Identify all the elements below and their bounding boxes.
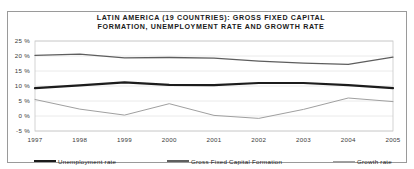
legend-line-icon-unemployment-rate — [34, 160, 56, 162]
y-tick-label: 25 % — [4, 37, 30, 44]
x-tick-label: 2000 — [151, 136, 187, 143]
x-tick-label: 1997 — [17, 136, 53, 143]
legend-item-growth-rate[interactable]: Growth rate — [333, 158, 392, 165]
legend-line-icon-gross-fixed-capital-formation — [167, 160, 189, 161]
series-line — [35, 82, 393, 88]
y-tick-label: 5 % — [4, 97, 30, 104]
plot-svg — [0, 0, 414, 169]
legend-item-unemployment-rate[interactable]: Unemployment rate — [34, 158, 116, 165]
plot-area: 25 %20 %15 %10 %5 %0 %-5 % 1997199819992… — [0, 0, 414, 169]
legend-label-unemployment-rate: Unemployment rate — [58, 158, 116, 165]
x-tick-label: 2004 — [330, 136, 366, 143]
x-tick-label: 1998 — [62, 136, 98, 143]
chart-legend: Unemployment rate Gross Fixed Capital Fo… — [34, 155, 392, 167]
x-tick-label: 1999 — [107, 136, 143, 143]
y-tick-label: 20 % — [4, 52, 30, 59]
y-tick-label: 0 % — [4, 112, 30, 119]
legend-label-growth-rate: Growth rate — [357, 158, 392, 165]
legend-item-gross-fixed-capital-formation[interactable]: Gross Fixed Capital Formation — [167, 158, 282, 165]
legend-line-icon-growth-rate — [333, 161, 355, 162]
x-tick-label: 2005 — [375, 136, 411, 143]
x-tick-label: 2001 — [196, 136, 232, 143]
chart-figure: LATIN AMERICA (19 COUNTRIES): GROSS FIXE… — [0, 0, 414, 169]
x-tick-label: 2003 — [286, 136, 322, 143]
y-tick-label: -5 % — [4, 127, 30, 134]
y-tick-label: 10 % — [4, 82, 30, 89]
y-tick-label: 15 % — [4, 67, 30, 74]
x-tick-label: 2002 — [241, 136, 277, 143]
legend-label-gross-fixed-capital-formation: Gross Fixed Capital Formation — [191, 158, 282, 165]
